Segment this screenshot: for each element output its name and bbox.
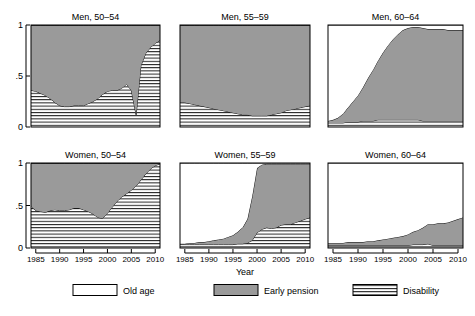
panel-women-60-64: Women, 60–64: [328, 150, 463, 248]
legend-swatch-old-age: [73, 285, 117, 296]
panel-title: Men, 50–54: [72, 12, 120, 22]
x-tick-label: 1990: [200, 255, 218, 264]
panel-title: Men, 55–59: [221, 12, 269, 22]
panel-men-60-64: Men, 60–64: [328, 12, 463, 127]
legend-swatch-early-pension: [214, 285, 258, 296]
x-tick-label: 1995: [374, 255, 392, 264]
legend-label-old-age: Old age: [123, 286, 155, 296]
x-tick-label: 2000: [99, 255, 117, 264]
legend-item-early-pension: Early pension: [214, 285, 319, 296]
panel-men-55-59: Men, 55–59: [180, 12, 310, 127]
legend-item-old-age: Old age: [73, 285, 155, 296]
x-axis-label: Year: [236, 267, 254, 277]
x-tick-label: 2010: [296, 255, 314, 264]
x-tick-label: 2005: [122, 255, 140, 264]
x-tick-label: 1995: [224, 255, 242, 264]
legend-item-disability: Disability: [353, 285, 440, 296]
legend-swatch-disability: [353, 285, 397, 296]
x-tick-label: 2000: [248, 255, 266, 264]
panel-title: Women, 60–64: [365, 150, 426, 160]
y-tick-label: .5: [15, 201, 23, 211]
x-tick-label: 1985: [27, 255, 45, 264]
y-tick-label: 1: [18, 20, 23, 30]
panel-title: Women, 50–54: [65, 150, 126, 160]
panel-title: Women, 55–59: [215, 150, 276, 160]
x-tick-label: 1985: [324, 255, 342, 264]
x-tick-label: 2000: [399, 255, 417, 264]
x-tick-label: 1990: [349, 255, 367, 264]
panel-title: Men, 60–64: [372, 12, 420, 22]
legend-label-early-pension: Early pension: [264, 286, 319, 296]
panel-women-50-54: Women, 50–54: [31, 150, 160, 248]
x-tick-label: 1985: [176, 255, 194, 264]
y-tick-label: .5: [15, 71, 23, 81]
x-tick-label: 2005: [424, 255, 442, 264]
legend: Old ageEarly pensionDisability: [73, 285, 440, 296]
y-tick-label: 1: [18, 158, 23, 168]
x-tick-label: 1990: [51, 255, 69, 264]
y-tick-label: 0: [18, 243, 23, 253]
area-early-pension: [180, 25, 310, 116]
panel-women-55-59: Women, 55–59: [180, 150, 310, 248]
legend-label-disability: Disability: [403, 286, 440, 296]
panel-men-50-54: Men, 50–54: [31, 12, 160, 127]
pension-pathways-figure: Men, 50–54Men, 55–59Men, 60–64Women, 50–…: [0, 0, 475, 316]
y-tick-label: 0: [18, 122, 23, 132]
x-tick-label: 1995: [75, 255, 93, 264]
x-tick-label: 2010: [146, 255, 164, 264]
x-tick-label: 2010: [449, 255, 467, 264]
x-tick-label: 2005: [272, 255, 290, 264]
